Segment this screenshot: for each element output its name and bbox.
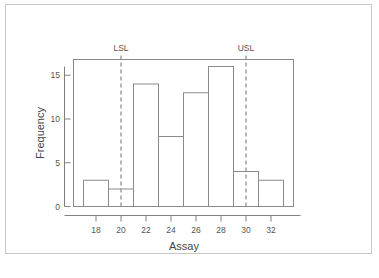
y-tick-group: 051015 xyxy=(51,70,71,211)
histogram-bar xyxy=(134,84,159,207)
x-tick-label: 28 xyxy=(216,225,226,235)
x-tick-label: 30 xyxy=(241,225,251,235)
x-axis-title: Assay xyxy=(169,240,199,252)
histogram-bar xyxy=(159,137,184,207)
x-tick-group: 1820222426283032 xyxy=(91,216,276,236)
histogram-bar xyxy=(259,180,284,206)
x-tick-label: 26 xyxy=(191,225,201,235)
histogram-svg: 051015 1820222426283032 LSLUSL Assay Fre… xyxy=(0,0,379,278)
spec-limit-label-lsl: LSL xyxy=(113,43,128,53)
y-tick-label: 10 xyxy=(51,114,61,124)
x-tick-label: 24 xyxy=(166,225,176,235)
histogram-bar xyxy=(209,67,234,207)
histogram-bar xyxy=(84,180,109,206)
x-tick-label: 20 xyxy=(116,225,126,235)
y-tick-label: 15 xyxy=(51,70,61,80)
x-tick-label: 18 xyxy=(91,225,101,235)
spec-limit-label-usl: USL xyxy=(238,43,255,53)
histogram-bars xyxy=(84,67,284,207)
y-tick-label: 0 xyxy=(55,202,60,212)
x-tick-label: 22 xyxy=(141,225,151,235)
histogram-figure: 051015 1820222426283032 LSLUSL Assay Fre… xyxy=(0,0,379,278)
histogram-bar xyxy=(184,93,209,207)
y-tick-label: 5 xyxy=(55,158,60,168)
x-tick-label: 32 xyxy=(266,225,276,235)
y-axis-title: Frequency xyxy=(34,107,46,159)
